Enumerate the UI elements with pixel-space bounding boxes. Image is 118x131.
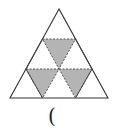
shaded-triangles <box>26 39 92 98</box>
triangle-diagram <box>0 0 118 131</box>
shaded-triangle-bottom-left <box>26 69 59 98</box>
shaded-triangle-bottom-right <box>59 69 92 98</box>
shaded-triangle-top <box>43 39 76 69</box>
answer-blank: ( <box>48 106 56 126</box>
